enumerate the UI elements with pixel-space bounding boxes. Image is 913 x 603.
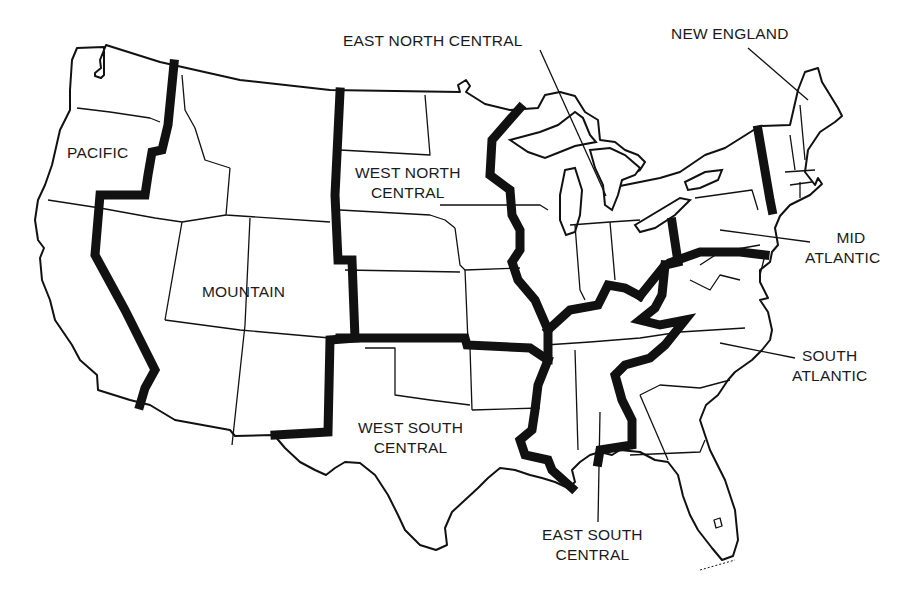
us-outline: [35, 45, 842, 560]
label-mountain: MOUNTAIN: [202, 282, 285, 302]
label-west-north-central: WEST NORTH CENTRAL: [355, 163, 461, 203]
label-line: ATLANTIC: [792, 366, 867, 386]
florida-keys: [700, 560, 735, 570]
label-mid-atlantic: MID ATLANTIC: [805, 228, 880, 268]
label-pacific: PACIFIC: [67, 143, 128, 163]
label-line: EAST NORTH CENTRAL: [343, 31, 523, 51]
label-east-north-central: EAST NORTH CENTRAL: [343, 31, 523, 51]
label-line: EAST SOUTH: [542, 525, 643, 545]
label-line: WEST SOUTH: [358, 418, 463, 438]
label-line: NEW ENGLAND: [671, 24, 789, 44]
label-west-south-central: WEST SOUTH CENTRAL: [358, 418, 463, 458]
label-line: WEST NORTH: [355, 163, 461, 183]
label-line: MOUNTAIN: [202, 282, 285, 302]
label-south-atlantic: SOUTH ATLANTIC: [792, 346, 867, 386]
label-new-england: NEW ENGLAND: [671, 24, 789, 44]
label-line: ATLANTIC: [805, 248, 880, 268]
label-line: CENTRAL: [355, 183, 461, 203]
census-divisions-map: [0, 0, 913, 603]
label-line: MID: [805, 228, 880, 248]
new-england-leader-line: [748, 48, 808, 100]
label-line: PACIFIC: [67, 143, 128, 163]
label-line: CENTRAL: [542, 545, 643, 565]
label-east-south-central: EAST SOUTH CENTRAL: [542, 525, 643, 565]
label-line: SOUTH: [792, 346, 867, 366]
label-line: CENTRAL: [358, 438, 463, 458]
